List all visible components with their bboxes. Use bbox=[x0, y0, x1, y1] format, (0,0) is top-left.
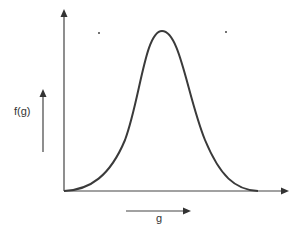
dot-marker bbox=[98, 32, 100, 34]
y-axis bbox=[61, 9, 68, 191]
y-axis-label: f(g) bbox=[14, 105, 31, 117]
dot-marker bbox=[225, 31, 227, 33]
y-direction-arrow bbox=[40, 89, 47, 152]
bell-curve bbox=[64, 31, 258, 191]
bell-curve-chart: f(g) g bbox=[0, 0, 299, 234]
x-axis-label: g bbox=[156, 212, 162, 224]
